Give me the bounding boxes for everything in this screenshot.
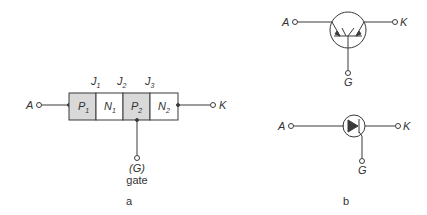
caption-b: b (343, 195, 349, 207)
bottom-anode-label: A (277, 120, 285, 132)
top-cathode-label: K (400, 16, 408, 28)
bottom-gate-label: G (358, 164, 367, 176)
junction-j1: J1 (90, 75, 101, 89)
panel-a (37, 93, 216, 161)
top-anode-label: A (281, 16, 289, 28)
top-gate-label: G (344, 76, 353, 88)
gate-symbol: (G) (129, 162, 145, 174)
junction-j3: J3 (144, 75, 155, 89)
scr-transistor-symbol (293, 12, 398, 76)
junction-j2: J2 (116, 75, 127, 89)
thyristor-diagram: A K P1 N1 P2 N2 J1 J2 J3 (G) gate a A K … (0, 0, 427, 215)
caption-a: a (126, 195, 133, 207)
anode-label: A (25, 99, 33, 111)
gate-text: gate (126, 174, 147, 186)
scr-diode-symbol (289, 115, 401, 164)
cathode-label: K (219, 99, 227, 111)
bottom-cathode-label: K (403, 120, 411, 132)
junction-labels: J1 J2 J3 (90, 75, 155, 89)
